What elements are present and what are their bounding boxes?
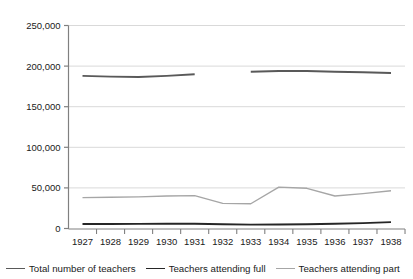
- legend-item[interactable]: Total number of teachers: [6, 263, 136, 274]
- y-tick-label: 0: [55, 223, 60, 234]
- legend-item[interactable]: Teachers attending part: [276, 263, 400, 274]
- x-tick-label: 1928: [100, 236, 121, 247]
- x-tick-label: 1938: [380, 236, 401, 247]
- x-tick-label: 1934: [268, 236, 289, 247]
- legend-item-label: Total number of teachers: [29, 263, 136, 274]
- x-tick-label: 1927: [72, 236, 93, 247]
- y-tick-label: 50,000: [31, 182, 60, 193]
- x-tick-label: 1932: [212, 236, 233, 247]
- legend-item-label: Teachers attending full: [169, 263, 266, 274]
- x-tick-label: 1933: [240, 236, 261, 247]
- series-line-1: [83, 222, 392, 224]
- y-tick-label: 250,000: [26, 20, 60, 31]
- y-tick-labels: 050,000100,000150,000200,000250,000: [26, 20, 60, 234]
- series-line-0: [251, 71, 391, 73]
- x-tick-label: 1936: [324, 236, 345, 247]
- gridlines: [69, 26, 406, 188]
- legend-item-label: Teachers attending part: [299, 263, 400, 274]
- x-tick-label: 1930: [156, 236, 177, 247]
- y-axis: [64, 26, 69, 230]
- y-tick-label: 100,000: [26, 142, 60, 153]
- x-tick-label: 1929: [128, 236, 149, 247]
- chart-legend: Total number of teachersTeachers attendi…: [0, 258, 413, 279]
- line-chart: 050,000100,000150,000200,000250,000 1927…: [0, 0, 413, 279]
- y-tick-label: 200,000: [26, 61, 60, 72]
- x-axis: [69, 229, 406, 234]
- series-line-2: [83, 187, 392, 204]
- chart-svg: 050,000100,000150,000200,000250,000 1927…: [0, 0, 413, 250]
- x-tick-labels: 1927192819291930193119321933193419351936…: [72, 236, 402, 247]
- legend-line-swatch-icon: [276, 268, 295, 269]
- legend-line-swatch-icon: [6, 268, 25, 269]
- x-tick-label: 1937: [352, 236, 373, 247]
- series-line-0: [83, 74, 195, 77]
- legend-line-swatch-icon: [146, 268, 165, 269]
- y-tick-label: 150,000: [26, 101, 60, 112]
- legend-item[interactable]: Teachers attending full: [146, 263, 266, 274]
- plot-area: 050,000100,000150,000200,000250,000 1927…: [0, 0, 413, 250]
- x-tick-label: 1935: [296, 236, 317, 247]
- x-tick-label: 1931: [184, 236, 205, 247]
